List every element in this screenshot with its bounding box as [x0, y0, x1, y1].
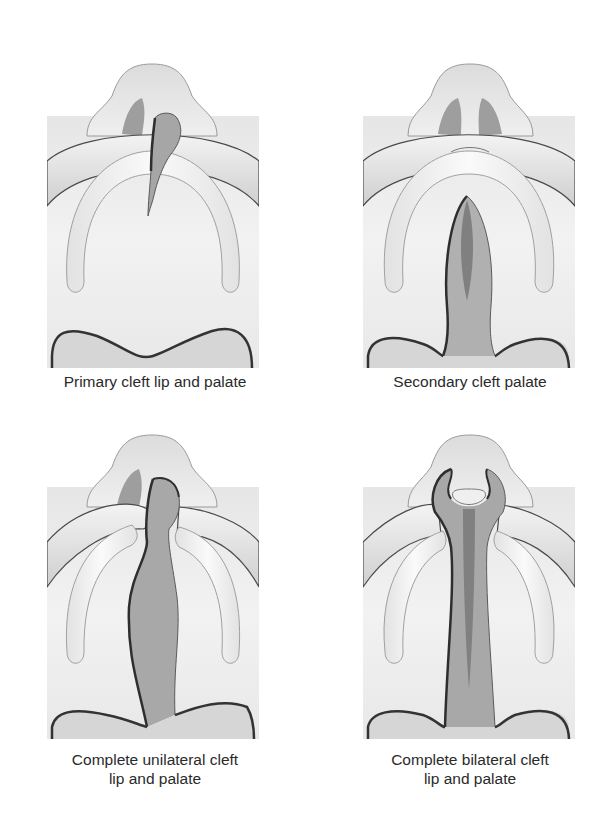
bilateral-cleft-illustration — [363, 427, 575, 739]
caption-unilateral: Complete unilateral cleft lip and palate — [40, 750, 270, 788]
panel-primary-cleft — [47, 56, 259, 368]
primary-cleft-illustration — [47, 56, 259, 368]
caption-primary: Primary cleft lip and palate — [40, 372, 270, 391]
premaxilla — [453, 489, 486, 505]
panel-secondary-cleft — [363, 56, 575, 368]
secondary-cleft-illustration — [363, 56, 575, 368]
panel-bilateral-cleft — [363, 427, 575, 739]
unilateral-cleft-illustration — [47, 427, 259, 739]
caption-bilateral: Complete bilateral cleft lip and palate — [355, 750, 585, 788]
caption-secondary: Secondary cleft palate — [355, 372, 585, 391]
nose-shape — [87, 64, 217, 136]
panel-unilateral-cleft — [47, 427, 259, 739]
